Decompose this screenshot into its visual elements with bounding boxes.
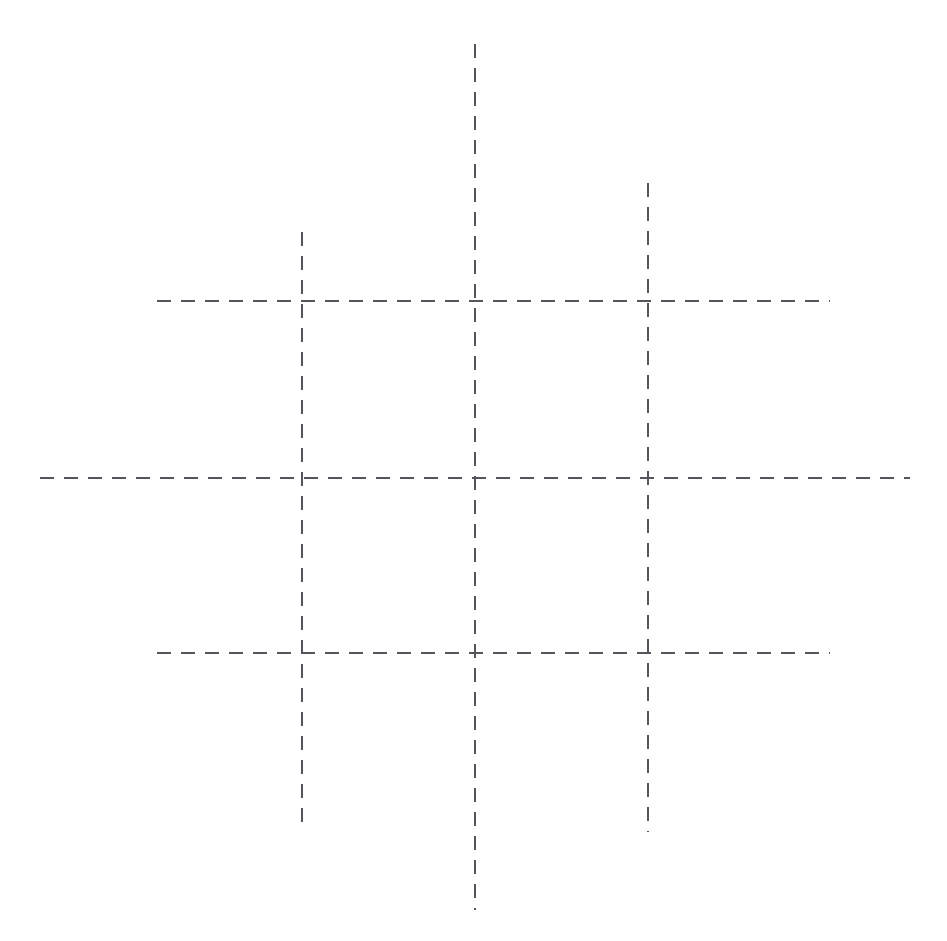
figure-background [0, 0, 947, 941]
diagram-canvas: Dashed crosshair grid [0, 0, 947, 941]
dashed-grid-figure [0, 0, 947, 941]
